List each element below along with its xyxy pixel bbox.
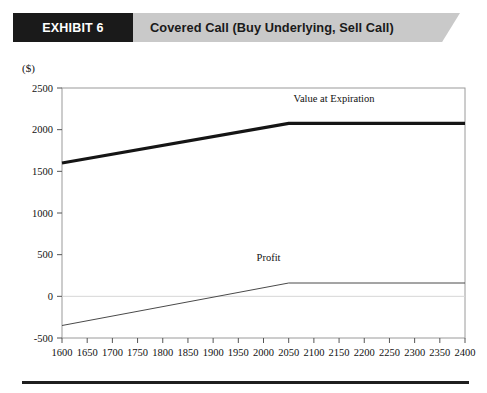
x-axis-tick-label: 1750	[127, 347, 148, 358]
x-axis-tick-label: 1900	[203, 347, 224, 358]
chart-container: ($) -50005001000150020002500160016501700…	[0, 50, 487, 370]
x-axis-tick-label: 1850	[177, 347, 198, 358]
x-axis-tick-label: 2200	[354, 347, 375, 358]
x-axis-tick-label: 1650	[77, 347, 98, 358]
x-axis-tick-label: 2400	[455, 347, 476, 358]
x-axis-tick-label: 1800	[152, 347, 173, 358]
y-axis-tick-label: 500	[37, 249, 53, 260]
x-axis-tick-label: 2150	[329, 347, 350, 358]
plot-frame	[62, 88, 465, 338]
exhibit-title: Covered Call (Buy Underlying, Sell Call)	[150, 13, 394, 42]
y-axis-tick-label: 2000	[32, 124, 53, 135]
x-axis-tick-label: 2000	[253, 347, 274, 358]
y-axis-tick-label: 1500	[32, 166, 53, 177]
x-axis-tick-label: 2300	[404, 347, 425, 358]
x-axis-tick-label: 1600	[52, 347, 73, 358]
x-axis-tick-label: 2250	[379, 347, 400, 358]
series-line-profit	[62, 283, 465, 326]
line-chart-svg: -500050010001500200025001600165017001750…	[0, 50, 487, 370]
y-axis-tick-label: 1000	[32, 208, 53, 219]
x-axis-tick-label: 2350	[429, 347, 450, 358]
series-annotation: Profit	[257, 252, 281, 263]
series-line-value-at-expiration	[62, 123, 465, 163]
x-axis-tick-label: 1950	[228, 347, 249, 358]
x-axis-tick-label: 2100	[303, 347, 324, 358]
y-axis-tick-label: 2500	[32, 83, 53, 94]
x-axis-tick-label: 2050	[278, 347, 299, 358]
y-axis-tick-label: 0	[48, 291, 53, 302]
exhibit-number-label: EXHIBIT 6	[42, 21, 104, 35]
series-annotation: Value at Expiration	[293, 93, 375, 104]
exhibit-number-badge: EXHIBIT 6	[13, 13, 133, 42]
y-axis-tick-label: -500	[34, 333, 53, 344]
exhibit-header: EXHIBIT 6 Covered Call (Buy Underlying, …	[13, 13, 460, 42]
footer-divider	[22, 381, 469, 384]
x-axis-tick-label: 1700	[102, 347, 123, 358]
